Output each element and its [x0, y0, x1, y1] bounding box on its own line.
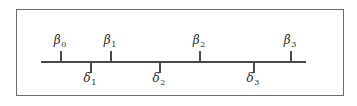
label-delta-2-subscript: 2 — [160, 78, 165, 87]
label-beta-1: β1 — [104, 34, 117, 49]
figure-root: β0 β1 β2 β3 δ1 δ2 δ3 — [0, 0, 357, 106]
label-delta-2-symbol: δ — [153, 71, 160, 85]
label-beta-0-subscript: 0 — [61, 40, 66, 49]
label-beta-0-symbol: β — [54, 33, 61, 47]
label-beta-1-symbol: β — [104, 33, 111, 47]
tick-beta-2 — [199, 51, 201, 62]
label-beta-3-subscript: 3 — [291, 40, 296, 49]
label-beta-3: β3 — [284, 34, 297, 49]
label-beta-0: β0 — [54, 34, 67, 49]
tick-beta-1 — [110, 51, 112, 62]
label-beta-2-symbol: β — [193, 33, 200, 47]
label-delta-3: δ3 — [247, 72, 260, 87]
label-beta-3-symbol: β — [284, 33, 291, 47]
tick-beta-0 — [60, 51, 62, 62]
label-beta-2: β2 — [193, 34, 206, 49]
axis-line — [41, 61, 306, 63]
number-line-area: β0 β1 β2 β3 δ1 δ2 δ3 — [0, 0, 357, 106]
label-delta-2: δ2 — [153, 72, 166, 87]
label-beta-2-subscript: 2 — [200, 40, 205, 49]
label-delta-3-symbol: δ — [247, 71, 254, 85]
label-beta-1-subscript: 1 — [111, 40, 116, 49]
tick-beta-3 — [290, 51, 292, 62]
label-delta-3-subscript: 3 — [254, 78, 259, 87]
label-delta-1: δ1 — [84, 72, 97, 87]
label-delta-1-subscript: 1 — [91, 78, 96, 87]
label-delta-1-symbol: δ — [84, 71, 91, 85]
